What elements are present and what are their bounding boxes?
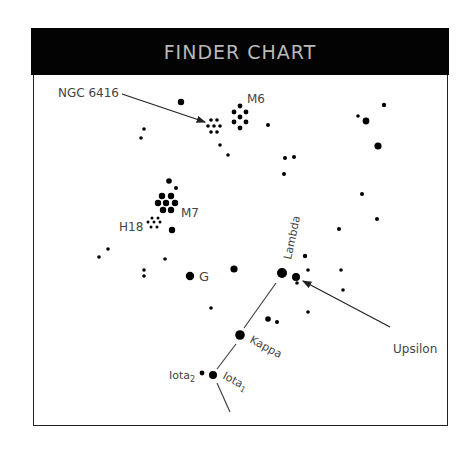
cluster-m7 (155, 193, 178, 213)
star (341, 288, 345, 292)
cluster-h18 (147, 217, 162, 229)
star (186, 272, 194, 280)
star (339, 268, 343, 272)
star (174, 186, 178, 190)
star (235, 330, 245, 340)
star (360, 192, 364, 196)
label-g: G (199, 269, 209, 284)
label-kappa: Kappa (248, 333, 285, 361)
star (142, 127, 146, 131)
star (139, 136, 143, 140)
upsilon-arrow (303, 281, 390, 327)
star (277, 268, 287, 278)
star (382, 103, 386, 107)
star (230, 265, 237, 272)
label-ngc6416: NGC 6416 (58, 86, 119, 100)
star (292, 273, 300, 281)
star (337, 227, 341, 231)
svg-text:Iota1: Iota1 (220, 369, 250, 395)
star (375, 217, 379, 221)
lambda-kappa-line (244, 283, 276, 328)
star (142, 268, 146, 272)
svg-text:Iota2: Iota2 (169, 369, 195, 384)
cluster-m6 (232, 104, 249, 131)
label-upsilon: Upsilon (393, 342, 437, 356)
star (97, 255, 101, 259)
star (209, 306, 213, 310)
star (303, 254, 307, 258)
star-chart: NGC 6416 M6 M7 H18 G Lambda Upsilon Kapp… (0, 0, 465, 455)
star (282, 172, 286, 176)
star (163, 257, 167, 261)
star (265, 316, 271, 322)
star (169, 227, 175, 233)
star (374, 142, 381, 149)
star (200, 371, 205, 376)
ngc6416-arrow (122, 94, 205, 122)
star (218, 143, 222, 147)
star (356, 114, 360, 118)
label-h18: H18 (119, 220, 143, 234)
stars (97, 99, 386, 379)
label-m6: M6 (247, 92, 265, 106)
star (306, 310, 310, 314)
star (275, 320, 279, 324)
iota-tail-line (217, 383, 230, 412)
kappa-iota-line (217, 344, 236, 369)
star (142, 274, 146, 278)
label-iota1: Iota1 (220, 369, 250, 395)
star (295, 281, 299, 285)
cluster-ngc6416 (206, 118, 222, 134)
star (266, 123, 270, 127)
star (226, 153, 230, 157)
label-lambda: Lambda (281, 215, 303, 261)
label-iota2: Iota2 (169, 369, 195, 384)
star (292, 155, 296, 159)
star (283, 156, 287, 160)
star (306, 268, 310, 272)
star (106, 247, 110, 251)
star (166, 178, 172, 184)
star (178, 99, 184, 105)
star (209, 371, 217, 379)
star (363, 118, 370, 125)
label-m7: M7 (181, 206, 199, 220)
